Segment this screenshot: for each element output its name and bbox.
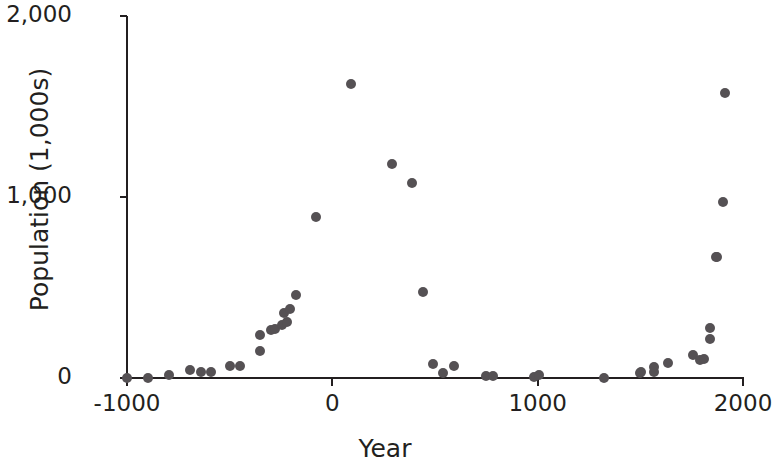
data-point	[599, 373, 609, 383]
data-point	[196, 367, 206, 377]
x-tick-0	[331, 378, 333, 386]
data-point	[488, 371, 498, 381]
y-tick-1000	[120, 196, 127, 198]
x-tick-label-2000: 2000	[714, 392, 772, 415]
y-tick-2000	[120, 15, 127, 17]
x-tick-2000	[742, 378, 744, 386]
data-point	[143, 373, 153, 383]
data-point	[718, 197, 728, 207]
data-point	[225, 361, 235, 371]
data-point	[122, 373, 132, 383]
x-tick-label-neg1000: -1000	[94, 392, 161, 415]
data-point	[534, 370, 544, 380]
x-tick-label-1000: 1000	[508, 392, 567, 415]
x-axis-title: Year	[0, 434, 770, 463]
y-tick-label-0: 0	[57, 365, 72, 388]
x-tick-label-0: 0	[325, 392, 340, 415]
data-point	[438, 368, 448, 378]
data-point	[428, 359, 438, 369]
data-point	[206, 367, 216, 377]
y-axis-title: Population (1,000s)	[25, 30, 54, 350]
data-point	[720, 88, 730, 98]
y-tick-label-2000: 2,000	[6, 3, 72, 26]
plot-area	[127, 10, 755, 378]
data-point	[387, 159, 397, 169]
data-point	[164, 370, 174, 380]
data-point	[449, 361, 459, 371]
data-point	[185, 365, 195, 375]
data-point	[282, 317, 292, 327]
data-point	[407, 178, 417, 188]
data-point	[235, 361, 245, 371]
